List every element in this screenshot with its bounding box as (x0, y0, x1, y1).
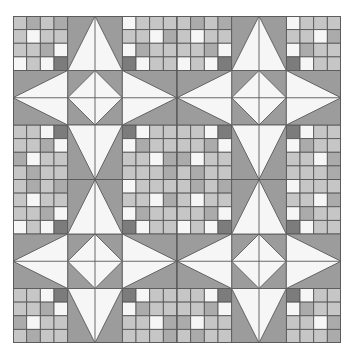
checker-top-left-cell (204, 16, 218, 30)
checker-top-left-cell (177, 16, 191, 30)
checker-bottom-left-cell (13, 166, 27, 180)
checker-bottom-left-cell (191, 125, 205, 139)
checker-top-right-cell (314, 193, 328, 207)
checker-bottom-right-cell (300, 139, 314, 153)
checker-top-left-cell (177, 193, 191, 207)
checker-top-left-cell (27, 207, 41, 221)
checker-top-left-cell (177, 180, 191, 194)
checker-bottom-right-cell (327, 302, 341, 316)
checker-bottom-right-cell (122, 302, 136, 316)
checker-top-right-cell (314, 30, 328, 44)
checker-top-left-cell (177, 220, 191, 234)
checker-top-right-cell (286, 30, 300, 44)
checker-top-right-cell (150, 57, 164, 71)
checker-bottom-left-cell (54, 166, 68, 180)
checker-top-left-cell (204, 220, 218, 234)
checker-top-left-cell (27, 30, 41, 44)
checker-top-right-cell (150, 16, 164, 30)
checker-bottom-left-cell (204, 289, 218, 303)
checker-top-right-cell (136, 220, 150, 234)
checker-bottom-right-cell (327, 316, 341, 330)
checker-top-left-cell (27, 220, 41, 234)
checker-top-left-cell (54, 180, 68, 194)
checker-bottom-right-cell (136, 316, 150, 330)
checker-top-right-cell (136, 43, 150, 57)
checker-top-left-cell (191, 220, 205, 234)
checker-top-right-cell (150, 30, 164, 44)
checker-top-left-cell (191, 43, 205, 57)
checker-bottom-right-cell (163, 166, 177, 180)
checker-bottom-left-cell (27, 166, 41, 180)
checker-top-left-cell (13, 180, 27, 194)
checker-top-left-cell (191, 207, 205, 221)
checker-top-right-cell (150, 220, 164, 234)
checker-top-left-cell (54, 16, 68, 30)
checker-top-right-cell (300, 193, 314, 207)
checker-top-left-cell (40, 207, 54, 221)
checker-bottom-right-cell (122, 289, 136, 303)
checker-bottom-right-cell (300, 152, 314, 166)
checker-top-right-cell (122, 220, 136, 234)
checker-top-right-cell (286, 43, 300, 57)
checker-bottom-right-cell (163, 125, 177, 139)
checker-bottom-left-cell (27, 125, 41, 139)
checker-top-left-cell (218, 180, 232, 194)
checker-bottom-left-cell (204, 139, 218, 153)
checker-bottom-right-cell (286, 329, 300, 343)
checker-bottom-right-cell (300, 316, 314, 330)
checker-top-left-cell (54, 57, 68, 71)
checker-top-left-cell (54, 207, 68, 221)
checker-top-right-cell (286, 193, 300, 207)
checker-bottom-left-cell (54, 139, 68, 153)
checker-bottom-right-cell (122, 329, 136, 343)
checker-bottom-right-cell (286, 125, 300, 139)
checker-bottom-left-cell (13, 139, 27, 153)
checker-top-left-cell (218, 43, 232, 57)
checker-top-left-cell (191, 57, 205, 71)
checker-bottom-left-cell (27, 152, 41, 166)
checker-bottom-right-cell (314, 289, 328, 303)
checker-top-right-cell (136, 57, 150, 71)
checker-bottom-right-cell (150, 302, 164, 316)
checker-bottom-right-cell (300, 329, 314, 343)
checker-bottom-left-cell (177, 139, 191, 153)
quilt-canvas (13, 16, 341, 343)
checker-bottom-right-cell (286, 139, 300, 153)
checker-top-left-cell (40, 220, 54, 234)
checker-top-left-cell (204, 180, 218, 194)
checker-bottom-right-cell (163, 152, 177, 166)
checker-bottom-right-cell (150, 329, 164, 343)
checker-top-left-cell (204, 193, 218, 207)
checker-top-right-cell (122, 16, 136, 30)
checker-bottom-left-cell (40, 139, 54, 153)
checker-top-right-cell (327, 30, 341, 44)
checker-top-right-cell (163, 193, 177, 207)
checker-bottom-left-cell (218, 289, 232, 303)
checker-bottom-right-cell (327, 152, 341, 166)
checker-top-right-cell (314, 16, 328, 30)
checker-bottom-left-cell (13, 316, 27, 330)
checker-top-left-cell (54, 43, 68, 57)
checker-bottom-left-cell (177, 302, 191, 316)
checker-bottom-right-cell (136, 166, 150, 180)
checker-bottom-left-cell (40, 316, 54, 330)
checker-top-left-cell (218, 30, 232, 44)
checker-top-left-cell (54, 30, 68, 44)
checker-bottom-left-cell (177, 125, 191, 139)
checker-top-right-cell (136, 207, 150, 221)
checker-bottom-right-cell (150, 139, 164, 153)
checker-bottom-left-cell (13, 302, 27, 316)
checker-bottom-left-cell (191, 152, 205, 166)
checker-bottom-right-cell (136, 125, 150, 139)
checker-top-right-cell (136, 180, 150, 194)
checker-bottom-right-cell (314, 152, 328, 166)
checker-top-right-cell (163, 16, 177, 30)
checker-bottom-left-cell (177, 329, 191, 343)
checker-top-left-cell (204, 30, 218, 44)
checker-bottom-left-cell (191, 302, 205, 316)
checker-bottom-right-cell (286, 316, 300, 330)
checker-bottom-left-cell (218, 302, 232, 316)
checker-top-right-cell (300, 43, 314, 57)
checker-bottom-left-cell (27, 329, 41, 343)
checker-bottom-left-cell (27, 302, 41, 316)
